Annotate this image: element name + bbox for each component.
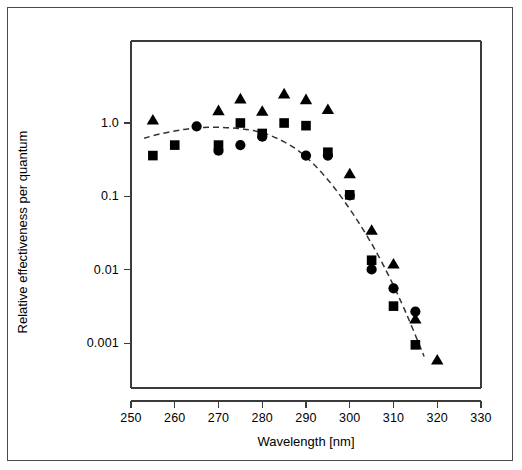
x-tick-label: 300: [339, 411, 360, 425]
x-tick-label: 280: [252, 411, 273, 425]
data-markers: [147, 88, 444, 365]
data-point-square: [148, 151, 158, 161]
data-point-square: [279, 118, 289, 128]
x-tick-label: 320: [427, 411, 448, 425]
x-tick-label: 290: [295, 411, 316, 425]
data-point-square: [367, 255, 377, 265]
y-tick-label: 0.1: [69, 189, 119, 203]
data-point-triangle: [322, 104, 334, 115]
data-point-triangle: [256, 105, 268, 116]
x-tick-label: 260: [164, 411, 185, 425]
data-point-circle: [301, 150, 311, 160]
y-tick-label: 1.0: [69, 116, 119, 130]
data-point-circle: [235, 140, 245, 150]
x-tick-label: 310: [383, 411, 404, 425]
data-point-circle: [192, 121, 202, 131]
x-axis-title: Wavelength [nm]: [257, 434, 354, 449]
data-point-triangle: [431, 354, 443, 365]
data-point-triangle: [278, 88, 290, 99]
chart-plot-area: [0, 0, 522, 470]
data-point-triangle: [234, 93, 246, 104]
data-point-triangle: [300, 94, 312, 105]
data-point-triangle: [365, 224, 377, 235]
data-point-square: [170, 140, 180, 150]
chart-axes: [124, 41, 481, 408]
data-point-triangle: [212, 105, 224, 116]
y-tick-label: 0.01: [69, 263, 119, 277]
data-point-circle: [345, 190, 355, 200]
data-point-circle: [213, 146, 223, 156]
y-axis-title: Relative effectiveness per quantum: [15, 131, 30, 334]
x-tick-label: 250: [120, 411, 141, 425]
data-point-square: [389, 301, 399, 311]
data-point-circle: [388, 283, 398, 293]
fit-curve: [144, 127, 424, 356]
data-point-triangle: [387, 258, 399, 269]
data-point-circle: [323, 150, 333, 160]
figure-container: 2502602702802903003103203301.00.10.010.0…: [0, 0, 522, 470]
data-point-circle: [367, 264, 377, 274]
y-tick-label: 0.001: [69, 336, 119, 350]
data-point-square: [236, 118, 246, 128]
fit-curve-path: [144, 127, 424, 356]
data-point-circle: [410, 306, 420, 316]
x-tick-label: 270: [208, 411, 229, 425]
data-point-square: [411, 340, 421, 350]
data-point-square: [301, 121, 311, 131]
data-point-circle: [257, 132, 267, 142]
data-point-triangle: [147, 114, 159, 125]
data-point-triangle: [344, 168, 356, 179]
x-tick-label: 330: [470, 411, 491, 425]
